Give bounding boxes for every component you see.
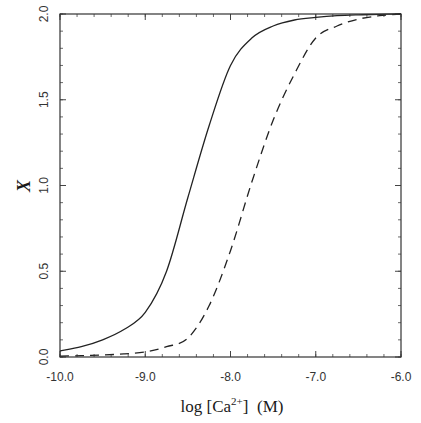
x-tick-label: -9.0 [135, 370, 156, 384]
y-axis-title: X [14, 179, 34, 193]
x-axis-title-prefix: log [Ca [181, 397, 232, 416]
x-axis-title-suffix: ] (M) [243, 397, 284, 416]
y-tick-label: 0.0 [37, 348, 51, 365]
x-axis-title: log [Ca2+] (M) [181, 395, 284, 416]
y-axis-tick-labels: 0.00.51.01.52.0 [37, 5, 51, 365]
y-tick-label: 1.0 [37, 177, 51, 194]
x-tick-label: -7.0 [305, 370, 326, 384]
x-axis-title-superscript: 2+ [231, 395, 243, 407]
x-tick-label: -10.0 [46, 370, 74, 384]
y-tick-label: 1.5 [37, 91, 51, 108]
y-tick-label: 2.0 [37, 5, 51, 22]
series-solid-line [60, 14, 401, 351]
x-axis-tick-labels: -10.0-9.0-8.0-7.0-6.0 [46, 370, 411, 384]
y-tick-label: 0.5 [37, 263, 51, 280]
chart: -10.0-9.0-8.0-7.0-6.0 0.00.51.01.52.0 lo… [0, 0, 421, 423]
x-tick-label: -8.0 [220, 370, 241, 384]
series-layer [60, 14, 401, 356]
x-tick-label: -6.0 [391, 370, 412, 384]
